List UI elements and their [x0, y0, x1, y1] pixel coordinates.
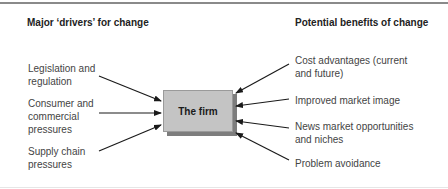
arrow-opportunities — [236, 121, 289, 128]
arrow-cost — [236, 64, 289, 93]
bottom-rule — [0, 187, 448, 188]
arrow-image — [236, 99, 289, 106]
arrows-layer — [0, 0, 448, 189]
arrow-supply-chain — [99, 125, 161, 151]
arrow-legislation — [99, 76, 161, 101]
arrow-problem — [236, 133, 289, 160]
